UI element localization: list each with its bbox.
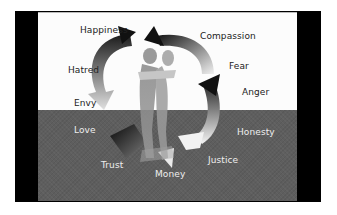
label-compassion: Compassion <box>200 31 256 41</box>
label-honesty: Honesty <box>237 127 275 137</box>
label-hatred: Hatred <box>68 65 99 75</box>
arrow-bottom-left-icon <box>110 124 146 158</box>
embracing-couple-icon <box>138 48 176 162</box>
label-money: Money <box>155 169 185 179</box>
label-fear: Fear <box>229 61 249 71</box>
label-justice: Justice <box>208 155 238 165</box>
label-trust: Trust <box>101 160 123 170</box>
label-love: Love <box>74 125 96 135</box>
label-anger: Anger <box>242 87 269 97</box>
label-envy: Envy <box>74 98 96 108</box>
slide: Happiness Compassion Hatred Fear Envy An… <box>38 12 297 201</box>
label-happiness: Happiness <box>80 25 128 35</box>
